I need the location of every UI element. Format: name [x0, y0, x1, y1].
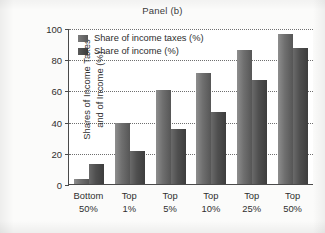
y-axis-tick-label: 60	[51, 86, 62, 97]
bar-group	[272, 29, 313, 184]
bar	[156, 90, 171, 184]
x-axis-tick-label-line1: Bottom	[74, 190, 104, 201]
bar	[130, 151, 145, 184]
bar	[252, 80, 267, 184]
y-axis-tick-label: 0	[57, 180, 62, 191]
y-axis-tick-label: 40	[51, 117, 62, 128]
chart-title: Panel (b)	[0, 5, 325, 16]
x-axis-labels: Bottom50%Top1%Top5%Top10%Top25%Top50%	[68, 190, 313, 215]
bar	[237, 50, 252, 184]
x-axis-tick-label-line1: Top	[122, 190, 137, 201]
chart-figure: Panel (b) 020406080100 Shares of Income …	[0, 0, 325, 233]
x-axis-tick-label-line2: 1%	[109, 203, 150, 216]
legend-item: Share of income (%)	[78, 45, 204, 57]
y-axis-tick-label: 20	[51, 148, 62, 159]
y-axis-tick-label: 80	[51, 55, 62, 66]
y-axis-tick	[65, 185, 69, 186]
bar	[211, 112, 226, 184]
chart-legend: Share of income taxes (%)Share of income…	[78, 32, 204, 58]
bar-group	[232, 29, 273, 184]
bar	[293, 48, 308, 184]
bar	[196, 73, 211, 184]
x-axis-tick-label: Bottom50%	[68, 190, 109, 215]
x-axis-tick-label-line1: Top	[285, 190, 300, 201]
legend-item: Share of income taxes (%)	[78, 32, 204, 44]
bar	[171, 129, 186, 184]
legend-swatch-icon	[78, 48, 88, 55]
x-axis-tick-label-line1: Top	[163, 190, 178, 201]
legend-swatch-icon	[78, 35, 88, 42]
bar	[278, 34, 293, 184]
x-axis-tick-label: Top10%	[190, 190, 231, 215]
x-axis-tick-label-line2: 5%	[150, 203, 191, 216]
x-axis-tick-label-line2: 50%	[68, 203, 109, 216]
x-axis-tick-label: Top25%	[231, 190, 272, 215]
x-axis-tick-label: Top1%	[109, 190, 150, 215]
x-axis-tick-label-line2: 50%	[272, 203, 313, 216]
x-axis-tick-label-line2: 10%	[190, 203, 231, 216]
bar	[74, 179, 89, 184]
x-axis-tick-label-line2: 25%	[231, 203, 272, 216]
x-axis-tick-label-line1: Top	[244, 190, 259, 201]
y-axis-tick-label: 100	[46, 24, 62, 35]
legend-label: Share of income (%)	[94, 46, 179, 56]
legend-label: Share of income taxes (%)	[94, 33, 204, 43]
x-axis-tick-label-line1: Top	[203, 190, 218, 201]
x-axis-tick-label: Top50%	[272, 190, 313, 215]
bar	[115, 123, 130, 184]
x-axis-tick-label: Top5%	[150, 190, 191, 215]
